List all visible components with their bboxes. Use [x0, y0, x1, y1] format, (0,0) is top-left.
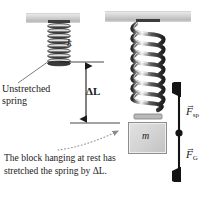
stretched-spring: [122, 19, 174, 123]
spring-force-diagram: m ΔL Unstretched spring k: [0, 0, 205, 199]
force-vectors: [172, 82, 186, 182]
vector-arrow-icon: →: [186, 100, 195, 110]
spring-force-label: →Fsp: [186, 105, 199, 117]
delta-l-label: ΔL: [86, 85, 100, 98]
spring-constant-label: k: [67, 36, 72, 49]
unstretched-spring-label: Unstretched spring: [2, 83, 50, 107]
unstretched-spring-leader: [18, 60, 52, 84]
unstretched-spring-label-line1: Unstretched: [2, 83, 50, 95]
caption-text: The block hanging at rest has stretched …: [4, 152, 116, 177]
particle-dot: [175, 129, 182, 136]
caption-leader-line: [56, 126, 126, 154]
spring-force-subscript: sp: [193, 111, 199, 119]
unstretched-spring-label-line2: spring: [2, 95, 50, 107]
vector-arrow-icon: →: [186, 143, 195, 153]
mass-label: m: [142, 130, 149, 142]
gravity-force-subscript: G: [193, 154, 198, 162]
gravity-force-label: →FG: [186, 148, 198, 160]
